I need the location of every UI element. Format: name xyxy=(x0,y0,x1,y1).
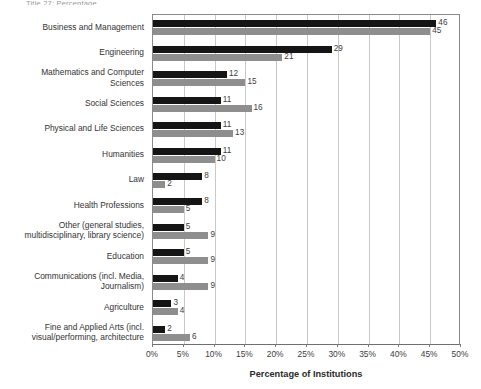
bar-us xyxy=(153,130,233,137)
bar-group: 59 xyxy=(153,224,459,239)
tick-mark xyxy=(429,344,430,347)
tick-mark xyxy=(275,344,276,347)
tick-label: 20% xyxy=(267,349,284,359)
bar-group: 1215 xyxy=(153,71,459,86)
bar-us xyxy=(153,232,208,239)
tick-label: 10% xyxy=(205,349,222,359)
category-label: Mathematics and ComputerSciences xyxy=(0,67,144,87)
bar-value-label: 21 xyxy=(284,53,293,61)
tick-label: 30% xyxy=(328,349,345,359)
tick-label: 5% xyxy=(177,349,189,359)
bar-us xyxy=(153,28,430,35)
bar-value-label: 2 xyxy=(167,180,172,188)
bar-eu xyxy=(153,275,178,282)
category-label: Engineering xyxy=(0,47,144,57)
tick-label: 50% xyxy=(452,349,469,359)
bar-us xyxy=(153,54,282,61)
bar-chart: Title 27: Percentage Business and Manage… xyxy=(0,0,481,389)
bar-group: 1110 xyxy=(153,148,459,163)
bar-us xyxy=(153,156,215,163)
bar-group: 4645 xyxy=(153,20,459,35)
bar-group: 26 xyxy=(153,326,459,341)
category-label: Education xyxy=(0,251,144,261)
bar-eu xyxy=(153,148,221,155)
tick-label: 40% xyxy=(390,349,407,359)
bar-value-label: 8 xyxy=(204,197,209,205)
category-label: Fine and Applied Arts (incl.visual/perfo… xyxy=(0,322,144,342)
tick-mark xyxy=(244,344,245,347)
category-label: Communications (incl. Media,Journalism) xyxy=(0,271,144,291)
bar-group: 59 xyxy=(153,249,459,264)
tick-mark xyxy=(183,344,184,347)
tick-label: 45% xyxy=(421,349,438,359)
bar-group: 34 xyxy=(153,300,459,315)
bar-eu xyxy=(153,224,184,231)
bar-eu xyxy=(153,198,202,205)
tick-mark xyxy=(214,344,215,347)
bar-group: 85 xyxy=(153,198,459,213)
bar-eu xyxy=(153,46,332,53)
bar-eu xyxy=(153,300,171,307)
bar-value-label: 15 xyxy=(247,78,256,86)
bar-value-label: 9 xyxy=(210,282,215,290)
tick-mark xyxy=(368,344,369,347)
bar-us xyxy=(153,105,252,112)
bar-group: 82 xyxy=(153,173,459,188)
tick-mark xyxy=(337,344,338,347)
bar-us xyxy=(153,257,208,264)
bar-us xyxy=(153,181,165,188)
plot-area: 46452921121511161113111082855959493426 E… xyxy=(152,14,460,345)
bar-value-label: 11 xyxy=(223,121,232,129)
bar-value-label: 5 xyxy=(186,248,191,256)
bar-eu xyxy=(153,326,165,333)
bar-us xyxy=(153,206,184,213)
bar-value-label: 8 xyxy=(204,172,209,180)
category-label: Humanities xyxy=(0,149,144,159)
bar-value-label: 11 xyxy=(223,96,232,104)
bar-value-label: 4 xyxy=(180,307,185,315)
bar-group: 49 xyxy=(153,275,459,290)
bar-us xyxy=(153,308,178,315)
bar-group: 1116 xyxy=(153,97,459,112)
bar-value-label: 5 xyxy=(186,205,191,213)
bar-value-label: 6 xyxy=(192,333,197,341)
category-label: Business and Management xyxy=(0,22,144,32)
bar-eu xyxy=(153,97,221,104)
tick-label: 0% xyxy=(146,349,158,359)
bar-eu xyxy=(153,20,436,27)
bar-value-label: 12 xyxy=(229,70,238,78)
bar-value-label: 45 xyxy=(432,27,441,35)
bar-value-label: 16 xyxy=(254,104,263,112)
bar-group: 1113 xyxy=(153,122,459,137)
bar-value-label: 10 xyxy=(217,155,226,163)
bar-value-label: 29 xyxy=(334,45,343,53)
cut-off-caption: Title 27: Percentage xyxy=(26,0,146,5)
tick-mark xyxy=(152,344,153,347)
bar-eu xyxy=(153,249,184,256)
x-axis-ticks: 0%5%10%15%20%25%30%35%40%45%50% xyxy=(152,347,460,361)
bar-value-label: 2 xyxy=(167,325,172,333)
tick-label: 35% xyxy=(359,349,376,359)
bar-value-label: 4 xyxy=(180,274,185,282)
bar-us xyxy=(153,334,190,341)
category-label: Law xyxy=(0,174,144,184)
tick-mark xyxy=(398,344,399,347)
tick-mark xyxy=(460,344,461,347)
category-label: Agriculture xyxy=(0,302,144,312)
bar-group: 2921 xyxy=(153,46,459,61)
tick-label: 25% xyxy=(298,349,315,359)
category-label: Health Professions xyxy=(0,200,144,210)
bar-us xyxy=(153,283,208,290)
bar-value-label: 13 xyxy=(235,129,244,137)
bar-eu xyxy=(153,122,221,129)
bar-eu xyxy=(153,173,202,180)
category-label: Other (general studies,multidisciplinary… xyxy=(0,220,144,240)
bar-value-label: 5 xyxy=(186,223,191,231)
bar-value-label: 9 xyxy=(210,231,215,239)
tick-mark xyxy=(306,344,307,347)
tick-label: 15% xyxy=(236,349,253,359)
bar-us xyxy=(153,79,245,86)
category-label: Physical and Life Sciences xyxy=(0,123,144,133)
category-axis-labels: Business and ManagementEngineeringMathem… xyxy=(0,14,148,345)
bar-value-label: 9 xyxy=(210,256,215,264)
